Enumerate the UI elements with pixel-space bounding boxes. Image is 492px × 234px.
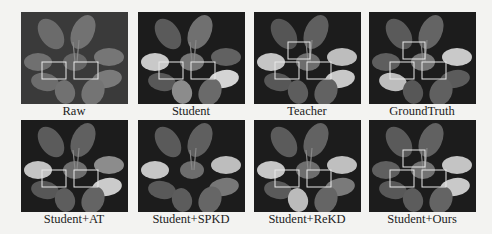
caption-student-rekd: Student+ReKD [242,212,372,226]
panel-student-ours [369,120,476,212]
leaf-segmentation-image [254,12,361,104]
leaf-segmentation-image [138,120,245,212]
caption-student-spkd: Student+SPKD [126,212,256,226]
panel-raw [21,12,128,104]
panel-student [138,12,245,104]
panel-teacher [254,12,361,104]
panel-student-spkd [138,120,245,212]
leaf-segmentation-image [369,120,476,212]
caption-student-at: Student+AT [9,212,139,226]
caption-groundtruth: GroundTruth [357,104,487,118]
leaf-segmentation-image [138,12,245,104]
panel-student-at [21,120,128,212]
leaf-segmentation-image [21,12,128,104]
leaf-segmentation-image [254,120,361,212]
caption-student-ours: Student+Ours [357,212,487,226]
panel-student-rekd [254,120,361,212]
caption-teacher: Teacher [242,104,372,118]
leaf-segmentation-image [369,12,476,104]
panel-groundtruth [369,12,476,104]
caption-student: Student [126,104,256,118]
caption-raw: Raw [9,104,139,118]
leaf-segmentation-image [21,120,128,212]
